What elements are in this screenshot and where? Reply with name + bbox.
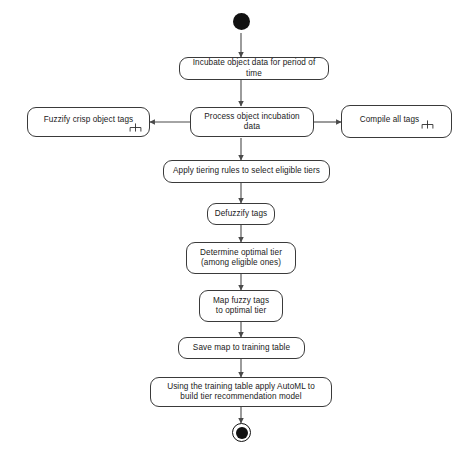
final-node <box>232 423 251 442</box>
initial-node <box>233 13 250 30</box>
action-apply-automl[interactable]: Using the training table apply AutoML to… <box>150 377 332 407</box>
action-compile-all-tags[interactable]: Compile all tags <box>341 105 452 138</box>
action-label: Determine optimal tier (among eligible o… <box>200 248 282 269</box>
rake-icon <box>421 120 434 129</box>
action-map-fuzzy-tags[interactable]: Map fuzzy tags to optimal tier <box>199 290 283 322</box>
action-save-map-to-training-table[interactable]: Save map to training table <box>178 337 305 359</box>
action-fuzzify-crisp-object-tags[interactable]: Fuzzify crisp object tags <box>27 107 150 137</box>
action-label: Map fuzzy tags to optimal tier <box>213 296 269 317</box>
activity-diagram-canvas: Incubate object data for period of time … <box>0 0 472 457</box>
action-incubate-object-data[interactable]: Incubate object data for period of time <box>179 57 329 80</box>
action-label: Process object incubation data <box>197 112 307 133</box>
final-node-core <box>236 427 248 439</box>
action-label: Fuzzify crisp object tags <box>44 115 133 126</box>
action-label: Save map to training table <box>193 343 290 354</box>
action-determine-optimal-tier[interactable]: Determine optimal tier (among eligible o… <box>186 242 296 274</box>
action-apply-tiering-rules[interactable]: Apply tiering rules to select eligible t… <box>163 160 330 183</box>
action-label: Compile all tags <box>360 115 420 126</box>
action-process-object-incubation-data[interactable]: Process object incubation data <box>190 107 314 137</box>
action-label: Defuzzify tags <box>215 209 268 220</box>
action-defuzzify-tags[interactable]: Defuzzify tags <box>207 203 275 225</box>
action-label: Using the training table apply AutoML to… <box>167 382 315 403</box>
action-label: Incubate object data for period of time <box>186 58 322 79</box>
action-label: Apply tiering rules to select eligible t… <box>173 166 320 177</box>
